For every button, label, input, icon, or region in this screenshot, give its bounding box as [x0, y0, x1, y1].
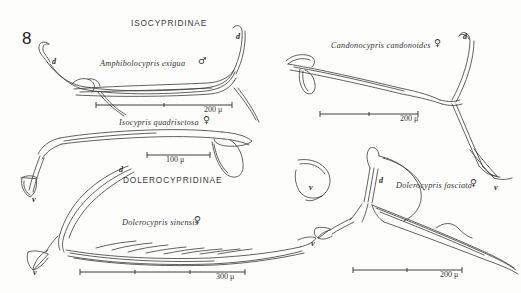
view-label-d-3: d: [463, 33, 467, 41]
view-label-d-1: d: [52, 58, 56, 66]
view-label-v-1: v: [32, 196, 36, 204]
view-label-d-5: d: [379, 177, 383, 185]
view-label-v-2: v: [33, 269, 37, 277]
drawing-amphibolocypris-exigua: [39, 26, 259, 122]
sex-symbol-female-isocypris-quadrisetosa: ♀: [203, 115, 210, 125]
sex-symbol-female-dolerocypris-sinensis: ♀: [194, 215, 201, 225]
figure-plate: 8 ISOCYPRIDINAE DOLEROCYPRIDINAE Amphibo…: [0, 0, 521, 293]
scale-label-100u-mid-left: 100 μ: [166, 156, 184, 164]
figure-number: 8: [22, 30, 31, 47]
species-label-amphibolocypris-exigua: Amphibolocypris exigua: [100, 60, 185, 68]
species-label-candonocypris-candonoides: Candonocypris candonoides: [331, 42, 431, 50]
subfamily-heading-isocypridinae: ISOCYPRIDINAE: [131, 19, 207, 27]
drawing-candonocypris-candonoides: [286, 33, 500, 177]
scale-label-200u-top-right: 200 μ: [400, 115, 418, 123]
view-label-v-5: v: [494, 184, 498, 192]
view-label-d-4: d: [119, 166, 123, 174]
species-label-dolerocypris-fasciata: Dolerocypris fasciata: [396, 182, 472, 190]
figure-line-art: [0, 0, 521, 293]
subfamily-heading-dolerocypridinae: DOLEROCYPRIDINAE: [123, 176, 222, 184]
drawing-isocypris-quadrisetosa: [21, 130, 252, 197]
drawing-dolerocypris-fasciata: [295, 147, 518, 274]
sex-symbol-female-dolerocypris-fasciata: ♀: [470, 178, 477, 188]
view-label-v-3: v: [309, 184, 313, 192]
sex-symbol-male-amphibolocypris-exigua: ♂: [198, 56, 207, 66]
view-label-d-2: d: [236, 33, 240, 41]
species-label-dolerocypris-sinensis: Dolerocypris sinensis: [122, 219, 198, 227]
scale-label-200u-top-left: 200 μ: [204, 106, 222, 114]
scale-label-200u-bottom-right: 200 μ: [440, 271, 458, 279]
sex-symbol-female-candonocypris-candonoides: ♀: [434, 38, 441, 48]
species-label-isocypris-quadrisetosa: Isocypris quadrisetosa: [119, 119, 199, 127]
view-label-v-4: v: [311, 240, 315, 248]
scale-label-300u-bottom-left: 300 μ: [216, 273, 234, 281]
